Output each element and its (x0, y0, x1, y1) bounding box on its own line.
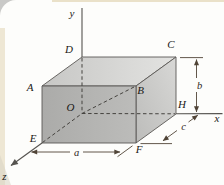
vertex-label-B: B (137, 84, 144, 96)
vertex-label-E: E (29, 132, 37, 144)
dimension-label-c: c (181, 121, 186, 132)
y-axis-label: y (69, 7, 75, 19)
vertex-label-F: F (135, 143, 143, 155)
vertex-label-C: C (167, 38, 175, 50)
z-axis (11, 143, 42, 166)
extension-line-F-a (118, 146, 133, 157)
box-diagram: y D C A B O H E F x z a b c (0, 0, 224, 185)
dimension-label-b: b (197, 80, 202, 91)
z-axis-label: z (1, 170, 7, 182)
vertex-label-D: D (64, 43, 73, 55)
dimension-label-a: a (74, 147, 79, 158)
dimension-a-lines (32, 146, 133, 157)
scanned-figure-page: y D C A B O H E F x z a b c (0, 0, 224, 185)
dim-c-lower (163, 131, 177, 141)
vertex-label-H: H (177, 98, 187, 110)
box-front-face (42, 86, 136, 143)
x-axis-label: x (214, 112, 220, 124)
vertex-label-A: A (26, 81, 34, 93)
dim-c-upper (189, 115, 198, 122)
origin-label-O: O (67, 101, 75, 113)
